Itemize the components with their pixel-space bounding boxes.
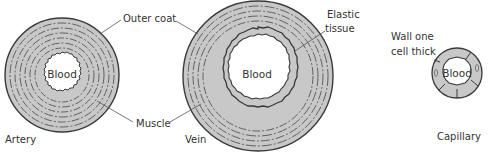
elastic-tissue-label-line2: tissue — [325, 22, 355, 35]
outer-coat-label: Outer coat — [123, 12, 176, 25]
vein-name-label: Vein — [185, 133, 206, 146]
vein-lumen — [228, 34, 290, 99]
artery-name-label: Artery — [5, 133, 36, 146]
vein-blood-label: Blood — [242, 68, 272, 80]
artery-blood-label: Blood — [47, 68, 77, 80]
wall-one-cell-label-line2: cell thick — [391, 45, 436, 58]
capillary-name-label: Capillary — [437, 130, 481, 143]
elastic-tissue-label-line1: Elastic — [327, 8, 360, 21]
wall-one-cell-label-line1: Wall one — [391, 30, 434, 43]
muscle-label: Muscle — [136, 117, 171, 130]
capillary-blood-label: Blood — [442, 67, 472, 79]
blood-vessel-diagram: Blood Blood Blood Outer coat Muscle Elas… — [0, 0, 492, 154]
